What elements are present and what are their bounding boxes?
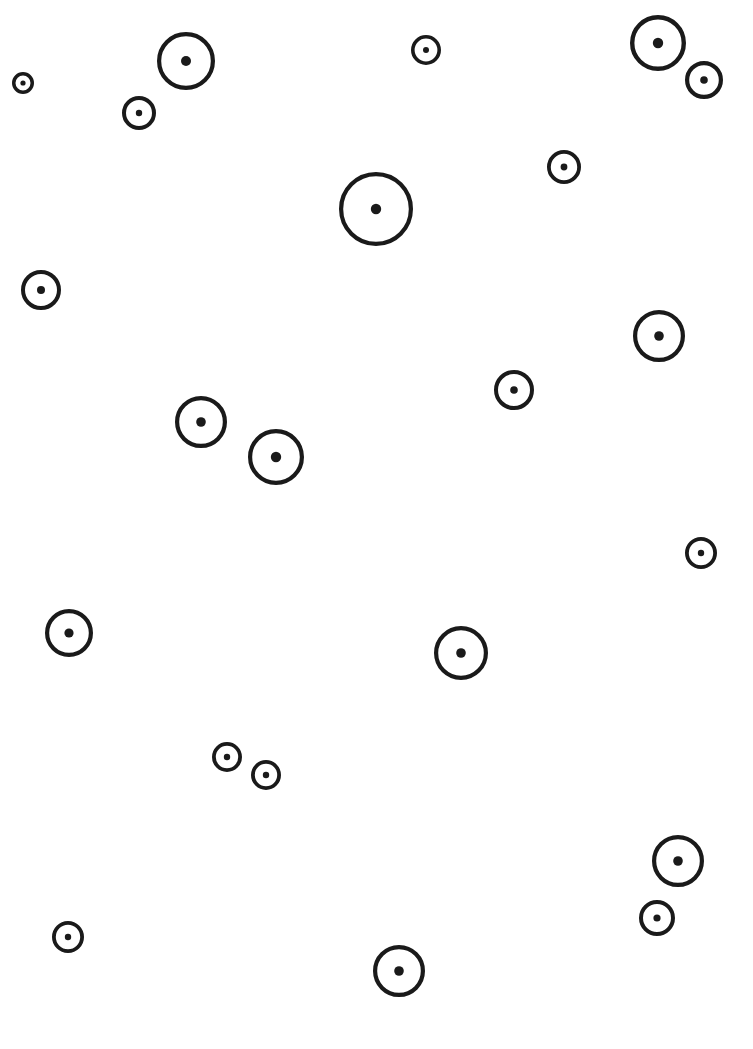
plot-background: [0, 0, 753, 1049]
marker-center-dot: [20, 80, 25, 85]
marker-center-dot: [653, 914, 660, 921]
marker-center-dot: [510, 386, 518, 394]
marker-center-dot: [698, 550, 704, 556]
marker-center-dot: [37, 286, 45, 294]
marker-center-dot: [394, 966, 404, 976]
marker-center-dot: [263, 772, 269, 778]
marker-center-dot: [224, 754, 230, 760]
marker-center-dot: [271, 452, 281, 462]
marker-center-dot: [65, 934, 71, 940]
marker-center-dot: [673, 856, 683, 866]
marker-center-dot: [64, 628, 73, 637]
marker-center-dot: [136, 110, 142, 116]
diagram-canvas: [0, 0, 753, 1049]
marker-center-dot: [653, 38, 663, 48]
marker-center-dot: [423, 47, 429, 53]
marker-center-dot: [456, 648, 466, 658]
marker-center-dot: [654, 331, 664, 341]
marker-center-dot: [181, 56, 191, 66]
marker-center-dot: [700, 76, 708, 84]
marker-center-dot: [371, 204, 381, 214]
scatter-plot-figure: [0, 0, 753, 1049]
marker-center-dot: [561, 164, 568, 171]
marker-center-dot: [196, 417, 206, 427]
